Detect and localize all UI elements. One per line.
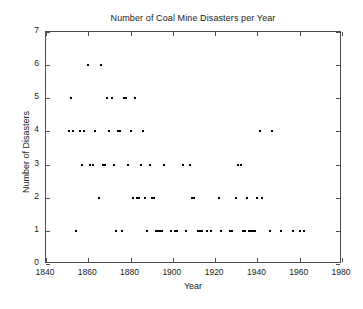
data-point [111, 97, 113, 99]
data-point [142, 130, 144, 132]
data-point [125, 97, 127, 99]
x-axis-label: Year [45, 281, 341, 291]
data-point [189, 164, 191, 166]
data-point [115, 230, 117, 232]
data-point [146, 230, 148, 232]
x-axis-tick [342, 258, 343, 262]
y-axis-tick [336, 264, 340, 265]
data-point [72, 130, 74, 132]
data-point [185, 230, 187, 232]
data-point [153, 197, 155, 199]
data-point [246, 197, 248, 199]
y-axis-tick [336, 165, 340, 166]
x-tick-label: 1980 [321, 267, 361, 277]
data-point [235, 197, 237, 199]
x-tick-label: 1900 [152, 267, 192, 277]
x-tick-label: 1840 [25, 267, 65, 277]
y-axis-tick [46, 98, 50, 99]
x-tick-label: 1860 [67, 267, 107, 277]
data-point [138, 197, 140, 199]
data-point [98, 197, 100, 199]
data-point [170, 230, 172, 232]
data-point [182, 164, 184, 166]
data-point [254, 230, 256, 232]
y-axis-tick [336, 131, 340, 132]
x-axis-tick [88, 32, 89, 36]
data-point [113, 164, 115, 166]
y-axis-tick [46, 264, 50, 265]
x-axis-tick [342, 32, 343, 36]
y-axis-tick [336, 98, 340, 99]
y-axis-tick [46, 32, 50, 33]
x-axis-tick [173, 32, 174, 36]
data-point [87, 64, 89, 66]
y-axis-tick [46, 231, 50, 232]
x-axis-tick [131, 258, 132, 262]
data-point [161, 230, 163, 232]
plot-axes-box [45, 31, 341, 263]
y-axis-tick [46, 131, 50, 132]
y-tick-label: 0 [25, 257, 39, 267]
data-point [193, 197, 195, 199]
figure-canvas: Number of Coal Mine Disasters per Year 1… [0, 0, 363, 309]
y-axis-tick [46, 65, 50, 66]
data-point [259, 130, 261, 132]
x-axis-tick [215, 258, 216, 262]
data-point [106, 97, 108, 99]
data-point [269, 230, 271, 232]
data-point [231, 230, 233, 232]
plot-data-area [46, 32, 340, 262]
y-axis-tick [336, 231, 340, 232]
data-point [92, 164, 94, 166]
data-point [79, 130, 81, 132]
x-tick-label: 1880 [110, 267, 150, 277]
y-tick-label: 6 [25, 58, 39, 68]
data-point [256, 197, 258, 199]
data-point [83, 130, 85, 132]
x-axis-tick [215, 32, 216, 36]
data-point [149, 164, 151, 166]
x-tick-label: 1920 [194, 267, 234, 277]
data-point [261, 197, 263, 199]
y-axis-label: Number of Disasters [21, 82, 31, 222]
x-axis-tick [257, 32, 258, 36]
data-point [206, 230, 208, 232]
y-axis-tick [46, 165, 50, 166]
y-axis-tick [336, 65, 340, 66]
x-axis-tick [131, 32, 132, 36]
data-point [119, 130, 121, 132]
x-axis-tick [88, 258, 89, 262]
data-point [81, 164, 83, 166]
data-point [218, 197, 220, 199]
data-point [127, 164, 129, 166]
x-axis-tick [173, 258, 174, 262]
data-point [130, 130, 132, 132]
data-point [244, 230, 246, 232]
data-point [75, 230, 77, 232]
x-axis-tick [300, 258, 301, 262]
data-point [70, 97, 72, 99]
data-point [271, 130, 273, 132]
data-point [176, 230, 178, 232]
data-point [108, 130, 110, 132]
y-axis-tick [46, 198, 50, 199]
x-axis-tick [300, 32, 301, 36]
data-point [210, 230, 212, 232]
x-tick-label: 1960 [279, 267, 319, 277]
data-point [100, 64, 102, 66]
x-axis-tick [46, 258, 47, 262]
data-point [240, 164, 242, 166]
data-point [68, 130, 70, 132]
data-point [220, 230, 222, 232]
data-point [132, 197, 134, 199]
chart-title: Number of Coal Mine Disasters per Year [45, 13, 341, 23]
data-point [140, 164, 142, 166]
y-axis-tick [336, 32, 340, 33]
data-point [144, 197, 146, 199]
data-point [299, 230, 301, 232]
data-point [94, 130, 96, 132]
data-point [104, 164, 106, 166]
data-point [201, 230, 203, 232]
x-axis-tick [257, 258, 258, 262]
data-point [292, 230, 294, 232]
